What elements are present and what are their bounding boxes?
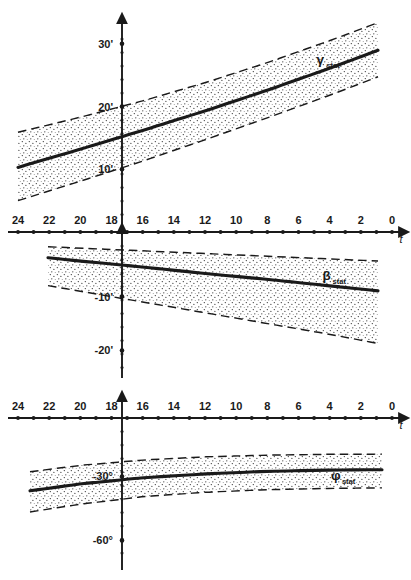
x-tick-mark [234, 416, 238, 420]
x-tick-mark [203, 230, 207, 234]
x-tick-mark [281, 416, 285, 420]
x-tick-label: 16 [137, 400, 149, 412]
x-tick-mark [297, 416, 301, 420]
series-label-subscript: stat [333, 277, 347, 286]
y-axis-dot [121, 498, 124, 501]
x-tick-mark [390, 230, 394, 234]
x-tick-label: 14 [168, 214, 181, 226]
x-tick-label: 24 [12, 214, 25, 226]
series-label-symbol: φ [331, 468, 341, 483]
y-axis-dot [121, 339, 124, 342]
x-tick-mark [47, 230, 51, 234]
y-axis-dot [121, 258, 124, 261]
x-tick-label: 18 [105, 400, 117, 412]
y-axis-dot [121, 186, 124, 189]
x-tick-mark [156, 230, 160, 234]
x-tick-mark [297, 230, 301, 234]
series-label-symbol: β [322, 268, 330, 283]
x-tick-mark [32, 230, 36, 234]
x-tick-mark [188, 416, 192, 420]
y-axis-dot [121, 285, 124, 288]
y-axis-dot [121, 457, 124, 460]
x-tick-mark [328, 416, 332, 420]
y-axis-dot [121, 272, 124, 275]
three-panel-figure: 10'20'30'242220181614121086420tγstat-10'… [0, 0, 411, 580]
y-axis-dot [121, 430, 124, 433]
x-tick-label: 8 [264, 400, 270, 412]
y-axis-dot [121, 92, 124, 95]
x-tick-mark [281, 230, 285, 234]
x-tick-label: 2 [358, 214, 364, 226]
x-tick-mark [343, 230, 347, 234]
x-tick-label: 10 [230, 214, 242, 226]
x-tick-label: 0 [389, 400, 395, 412]
x-tick-mark [110, 230, 114, 234]
x-tick-mark [390, 416, 394, 420]
y-tick-mark [120, 167, 125, 172]
x-tick-mark [219, 416, 223, 420]
series-label-subscript: stat [342, 477, 356, 486]
x-tick-mark [125, 230, 129, 234]
gamma-stat-panel [8, 22, 400, 235]
x-tick-mark [250, 230, 254, 234]
y-axis-dot [121, 511, 124, 514]
y-tick-mark [120, 474, 125, 479]
series-label-subscript: stat [326, 61, 340, 70]
x-tick-label: 4 [327, 400, 334, 412]
y-tick-label: 30' [98, 38, 113, 50]
y-axis-dot [121, 78, 124, 81]
y-axis-dot [121, 119, 124, 122]
y-axis-dot [121, 366, 124, 369]
x-tick-mark [203, 416, 207, 420]
x-tick-mark [78, 230, 82, 234]
x-tick-label: 18 [105, 214, 117, 226]
y-axis-dot [121, 200, 124, 203]
y-axis-dot [121, 213, 124, 216]
y-axis-dot [121, 245, 124, 248]
y-axis-dot [121, 444, 124, 447]
y-axis-dot [121, 159, 124, 162]
x-tick-mark [265, 416, 269, 420]
x-tick-label: 12 [199, 214, 211, 226]
y-axis-dot [121, 538, 124, 541]
y-tick-label: -30° [93, 470, 113, 482]
y-tick-label: 10' [98, 163, 113, 175]
x-tick-mark [78, 416, 82, 420]
x-tick-label: 20 [74, 400, 86, 412]
x-tick-mark [156, 416, 160, 420]
y-tick-label: 20' [98, 101, 113, 113]
x-tick-mark [359, 416, 363, 420]
x-axis-label: t [399, 233, 403, 245]
x-tick-label: 22 [43, 400, 55, 412]
x-tick-mark [94, 416, 98, 420]
x-tick-mark [141, 416, 145, 420]
x-tick-label: 24 [12, 400, 25, 412]
x-tick-label: 12 [199, 400, 211, 412]
x-tick-mark [47, 416, 51, 420]
x-tick-mark [63, 230, 67, 234]
x-tick-label: 4 [327, 214, 334, 226]
y-axis-dot [121, 552, 124, 555]
y-tick-mark [120, 348, 125, 353]
x-tick-mark [234, 230, 238, 234]
x-tick-mark [375, 230, 379, 234]
x-tick-label: 14 [168, 400, 181, 412]
x-tick-label: 6 [295, 400, 301, 412]
x-tick-label: 20 [74, 214, 86, 226]
series-label-symbol: γ [317, 52, 325, 67]
x-tick-mark [63, 416, 67, 420]
y-tick-mark [120, 42, 125, 47]
y-axis-dot [121, 299, 124, 302]
x-tick-mark [219, 230, 223, 234]
y-tick-label: -10' [94, 291, 113, 303]
x-tick-mark [250, 416, 254, 420]
x-tick-label: 10 [230, 400, 242, 412]
x-tick-mark [375, 416, 379, 420]
y-axis-dot [121, 132, 124, 135]
x-tick-label: 6 [295, 214, 301, 226]
x-tick-mark [172, 416, 176, 420]
x-tick-mark [359, 230, 363, 234]
y-axis-dot [121, 173, 124, 176]
y-axis-dot [121, 65, 124, 68]
y-axis-dot [121, 326, 124, 329]
